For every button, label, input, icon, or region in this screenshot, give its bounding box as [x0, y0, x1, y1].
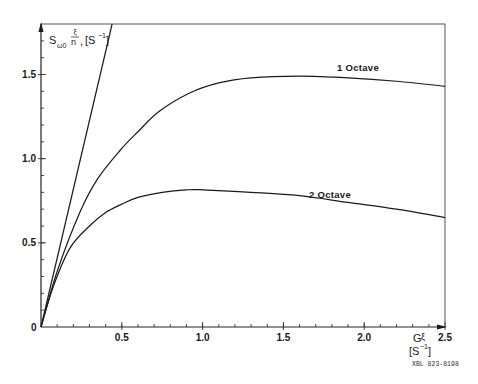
x-axis-title-unit-close: ]	[428, 345, 431, 357]
series-1-octave	[41, 76, 445, 327]
x-tick-label: 2.0	[357, 332, 371, 343]
y-tick-label: 1.5	[22, 69, 36, 80]
y-axis: 0.51.01.5	[22, 22, 46, 327]
y-axis-title-frac-num: ξ	[74, 28, 77, 36]
figure-id: XBL 823-8198	[412, 361, 459, 368]
y-tick-label: 1.0	[22, 153, 36, 164]
series-linear-limit	[41, 24, 112, 327]
x-axis-title-sym: ξ	[421, 332, 425, 342]
x-tick-label: 2.5	[438, 332, 452, 343]
series-label-1-octave: 1 Octave	[337, 62, 379, 73]
y-axis-title-unit: [S	[85, 34, 95, 46]
x-major-ticks: 0.51.01.52.02.5	[115, 322, 453, 343]
x-axis-title: G ξ [S −1 ]	[409, 332, 431, 357]
y-major-ticks: 0.51.01.5	[22, 69, 46, 248]
origin-label: 0	[31, 322, 37, 333]
series-label-2-octave: 2 Octave	[309, 189, 351, 200]
series-2-octave	[41, 189, 445, 327]
x-axis-title-unit: [S	[409, 345, 419, 357]
x-tick-label: 1.0	[196, 332, 210, 343]
x-axis-title-unit-exp: −1	[420, 343, 428, 350]
y-axis-title-main: S	[49, 34, 56, 46]
y-axis-title-unit-exp: −1	[98, 32, 106, 39]
y-tick-label: 0.5	[22, 237, 36, 248]
x-tick-label: 0.5	[115, 332, 129, 343]
series-layer	[41, 24, 445, 327]
x-axis: 0.51.01.52.02.5	[41, 322, 452, 343]
x-tick-label: 1.5	[276, 332, 290, 343]
y-axis-title-frac-den: n	[71, 37, 76, 47]
y-axis-title-sub: ω0	[57, 42, 66, 49]
y-axis-title: S ω0 ξ n , [S −1 ]	[49, 28, 109, 49]
y-axis-title-comma: ,	[80, 35, 83, 47]
chart: 0.51.01.5 0.51.01.52.02.5 0 S ω0 ξ n , […	[0, 0, 478, 384]
